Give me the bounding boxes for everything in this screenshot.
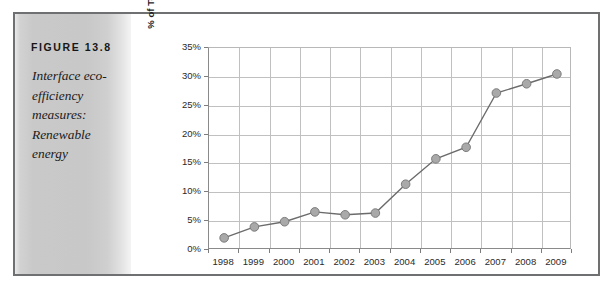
data-point-marker: [250, 223, 259, 232]
data-point-marker: [311, 208, 320, 217]
figure-number-label: FIGURE 13.8: [31, 41, 112, 53]
data-point-marker: [280, 217, 289, 226]
data-point-marker: [522, 79, 531, 88]
y-axis-tick-label: 25%: [171, 100, 201, 110]
x-axis-tick-label: 2009: [536, 257, 576, 267]
series-markers: [220, 70, 561, 243]
chart-region: % of Total Energy Use 0%5%10%15%20%25%30…: [131, 14, 598, 274]
figure-screenshot: FIGURE 13.8 Interface eco-efficiency mea…: [0, 0, 613, 301]
data-point-marker: [341, 210, 350, 219]
data-point-marker: [492, 89, 501, 98]
plot-area: [208, 47, 571, 249]
y-axis-tick-label: 30%: [171, 71, 201, 81]
series-line: [224, 74, 557, 238]
data-point-marker: [553, 70, 562, 79]
y-axis-tick-label: 10%: [171, 186, 201, 196]
y-axis-tick-label: 20%: [171, 129, 201, 139]
data-point-marker: [371, 209, 380, 218]
data-point-marker: [432, 155, 441, 164]
y-axis-tick-label: 5%: [171, 215, 201, 225]
figure-caption-panel: FIGURE 13.8 Interface eco-efficiency mea…: [15, 14, 131, 274]
y-axis-tick-label: 0%: [171, 244, 201, 254]
data-series-renewable-energy: [209, 48, 572, 250]
data-point-marker: [462, 143, 471, 152]
figure-caption-text: Interface eco-efficiency measures: Renew…: [32, 66, 128, 164]
data-point-marker: [401, 180, 410, 189]
y-axis-title: % of Total Energy Use: [145, 0, 157, 68]
figure-frame: FIGURE 13.8 Interface eco-efficiency mea…: [13, 12, 600, 276]
data-point-marker: [220, 234, 229, 243]
y-axis-tick-label: 15%: [171, 157, 201, 167]
y-axis-tick-label: 35%: [171, 42, 201, 52]
